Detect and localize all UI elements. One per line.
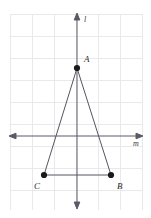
line-label-l: l: [84, 15, 87, 24]
point-label-c: C: [34, 181, 41, 191]
figure-canvas: A B C l m: [0, 0, 151, 218]
geometry-figure: A B C l m: [0, 0, 151, 218]
point-label-b: B: [117, 181, 123, 191]
vertex-point-a: [74, 65, 80, 71]
vertex-point-b: [108, 172, 114, 178]
line-l-arrow-down-icon: [74, 202, 80, 209]
line-label-m: m: [133, 139, 139, 148]
point-label-a: A: [83, 54, 90, 64]
axis-line-l: [74, 13, 80, 209]
vertex-point-c: [41, 172, 47, 178]
